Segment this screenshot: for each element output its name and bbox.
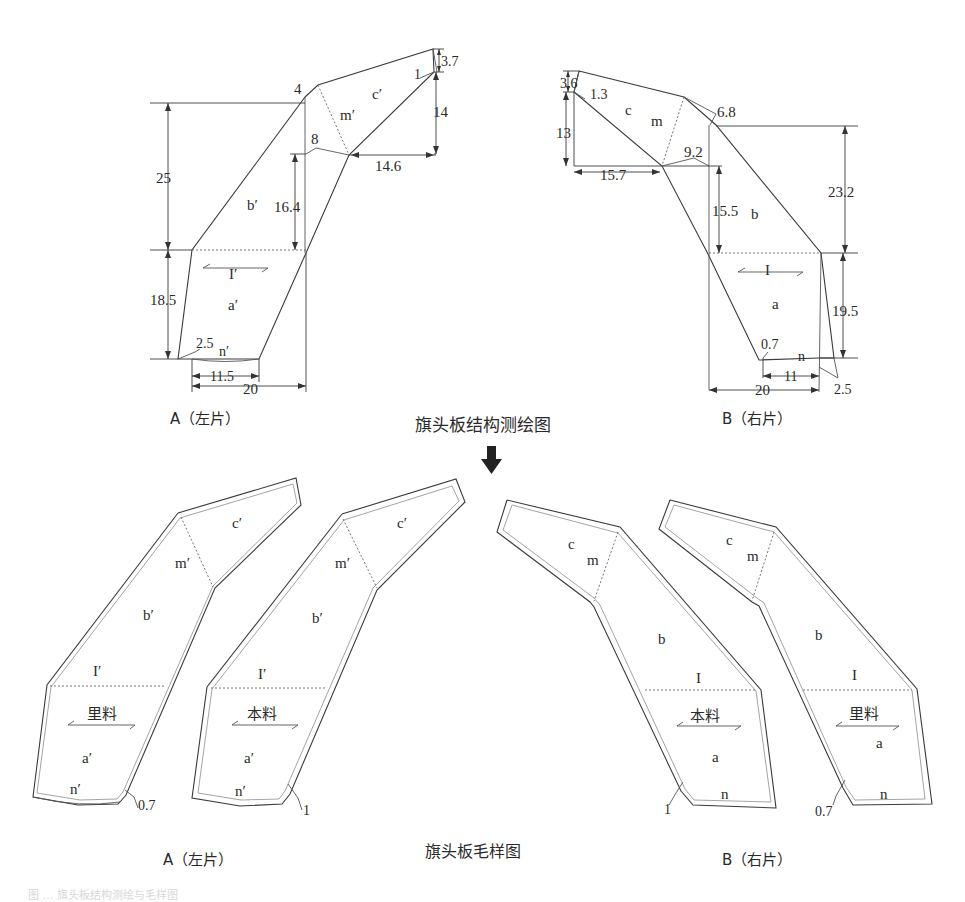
dim-label: 4 [294,81,302,97]
region-label: I′ [258,666,266,682]
region-label: a [712,749,719,765]
dim-label: 18.5 [150,292,176,308]
region-label: m [651,113,663,129]
material-label: 本料 [247,705,277,723]
dim-label: 16.4 [274,199,301,215]
dim-label: 14.6 [375,158,402,174]
dim-label: 14 [433,104,449,120]
dim-label: 1 [414,67,421,82]
material-label: 本料 [690,707,720,725]
dim-label: 15.5 [712,203,738,219]
dim-label: 23.2 [828,184,854,200]
region-label: b [751,206,759,222]
caption-bottom-right: B（右片） [722,851,792,869]
region-label: a′ [82,750,92,766]
dim-label: 2.5 [196,336,214,351]
dim-label: 3.7 [441,54,459,69]
dim-label: 13 [556,125,571,141]
region-label: b′ [247,197,258,213]
region-label: a′ [228,297,238,313]
dim-label: 2.5 [834,382,852,397]
region-label: I [696,670,701,686]
region-label: b [658,631,666,647]
region-label: m [587,552,599,568]
region-label: I [852,667,857,683]
region-label: a′ [244,750,254,766]
dim-label: 19.5 [832,303,858,319]
region-label: n′ [235,783,246,799]
region-label: n [721,786,729,802]
pattern-piece-a-lining: c′ m′ b′ I′ 里料 a′ n′ 0.7 [33,478,301,813]
dim-label: 9.2 [684,144,703,160]
pattern-piece-b-lining: c m b I 里料 a n 0.7 [659,500,932,819]
dim-label: 8 [311,131,319,147]
pattern-diagram-title: 旗头板毛样图 [425,842,521,861]
seam-allowance-label: 1 [303,803,310,818]
dim-label: 25 [156,170,171,186]
region-label: c′ [397,515,407,531]
region-label: a [876,735,883,751]
seam-allowance-label: 0.7 [815,804,833,819]
dim-label: 20 [243,381,258,397]
dim-label: 6.8 [717,104,736,120]
region-label: m [747,548,759,564]
footer-note: 图 … 旗头板结构测绘与毛样图 [28,888,178,902]
material-label: 里料 [849,705,879,723]
region-label: c [568,536,575,552]
structure-diagram-title: 旗头板结构测绘图 [415,415,551,435]
region-label: c′ [232,515,242,531]
region-label: b′ [312,610,323,626]
caption-right-b: B（右片） [722,410,792,428]
dim-label: 3.6 [560,76,578,91]
region-label: I′ [229,266,237,282]
down-arrow-icon [481,446,502,474]
region-label: b′ [143,607,154,623]
caption-bottom-left: A（左片） [163,851,233,869]
region-label: I′ [93,663,101,679]
region-label: n′ [219,344,229,359]
dim-label: 15.7 [600,167,627,183]
material-label: 里料 [87,705,117,723]
region-label: m′ [335,555,350,571]
diagram-canvas: 4 3.7 1 14 8 14.6 25 16.4 18.5 2.5 11.5 … [0,0,965,902]
region-label: m′ [175,555,190,571]
caption-left-a: A（左片） [170,410,240,428]
dim-label: 11.5 [210,369,234,384]
region-label: a [772,296,779,312]
region-label: c′ [372,86,382,102]
region-label: c [726,532,733,548]
seam-allowance-label: 1 [664,802,671,817]
seam-allowance-label: 0.7 [138,798,156,813]
structure-left-a: 4 3.7 1 14 8 14.6 25 16.4 18.5 2.5 11.5 … [150,49,459,428]
region-label: n [880,786,888,802]
pattern-piece-b-shell: c m b I 本料 a n 1 [497,500,776,817]
structure-right-b: 3.6 1.3 13 15.7 9.2 6.8 15.5 23.2 19.5 0… [556,71,858,428]
dim-label: 11 [784,369,797,384]
region-label: c [625,102,632,118]
region-label: n′ [70,781,81,797]
region-label: m′ [340,107,355,123]
region-label: I [765,262,770,278]
region-label: b [815,627,823,643]
dim-label: 1.3 [590,87,608,102]
dim-label: 0.7 [761,337,779,352]
dim-label: 20 [755,382,770,398]
region-label: n [798,349,805,364]
